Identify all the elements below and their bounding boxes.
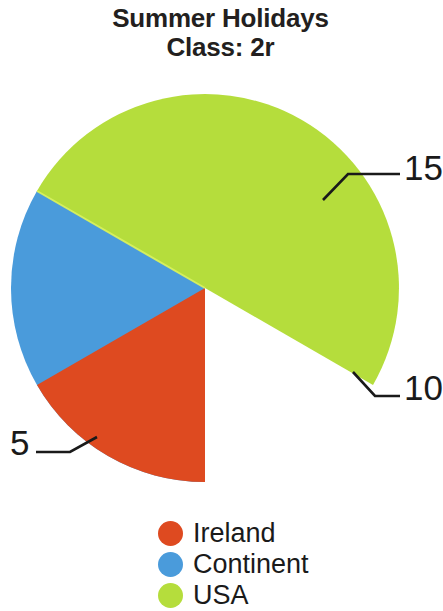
chart-legend: Ireland Continent USA [158, 518, 438, 611]
legend-swatch-ireland-icon [158, 521, 183, 546]
legend-item-ireland: Ireland [158, 518, 438, 549]
legend-swatch-continent-icon [158, 552, 183, 577]
pie-plot-area: 15 10 5 [0, 0, 441, 520]
legend-label-continent: Continent [193, 551, 309, 578]
data-label-ireland: 5 [10, 425, 29, 460]
legend-item-usa: USA [158, 580, 438, 611]
legend-label-usa: USA [193, 582, 249, 609]
legend-item-continent: Continent [158, 549, 438, 580]
data-label-usa: 15 [404, 150, 443, 185]
legend-label-ireland: Ireland [193, 520, 276, 547]
data-label-continent: 10 [404, 370, 443, 405]
legend-swatch-usa-icon [158, 583, 183, 608]
pie-svg [0, 0, 441, 520]
